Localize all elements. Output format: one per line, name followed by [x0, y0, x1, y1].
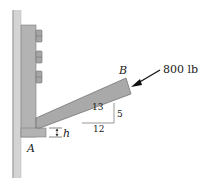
force-label: 800 lb — [163, 63, 198, 76]
bolt-icon — [36, 71, 42, 83]
bolts — [36, 30, 42, 83]
slope-hypotenuse-label: 13 — [92, 102, 104, 112]
h-label: h — [63, 127, 70, 140]
bolt-icon — [36, 51, 42, 63]
slope-rise-label: 5 — [117, 109, 123, 119]
slope-run-label: 12 — [93, 124, 104, 134]
bolt-icon — [36, 30, 42, 42]
h-dimension — [49, 128, 62, 137]
point-a-label: A — [26, 142, 35, 155]
bracket-diagram: 13 5 12 B 800 lb h A — [0, 0, 203, 181]
point-b-label: B — [118, 64, 127, 77]
force-arrow-icon — [131, 70, 160, 87]
bracket-arm — [36, 78, 131, 128]
wall — [13, 10, 21, 178]
